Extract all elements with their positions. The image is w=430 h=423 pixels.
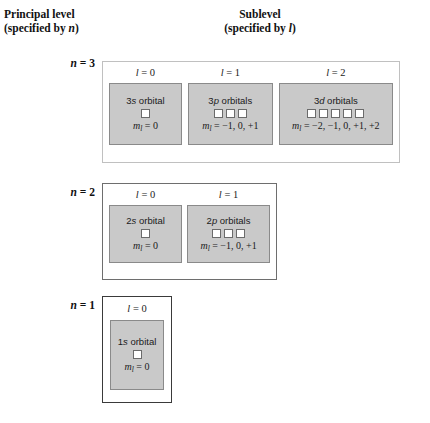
orbital-square [214, 109, 223, 118]
orbital-square [355, 109, 364, 118]
l-value-3-2: = 2 [329, 67, 345, 78]
sublevel-row-1: l = 0 1s orbital ml = 0 [103, 297, 171, 402]
orbital-box-3d: 3d orbitals ml = −2, −1, 0, +1, +2 [279, 83, 393, 145]
sublevel-col-2s: l = 0 2s orbital ml = 0 [109, 189, 182, 263]
orbital-square [224, 229, 233, 238]
orbital-square [236, 229, 245, 238]
orbital-squares-3p [214, 109, 247, 118]
orbital-square [343, 109, 352, 118]
principal-level-box-1: l = 0 1s orbital ml = 0 [102, 296, 172, 403]
orbital-title-3s: 3s orbital [126, 95, 165, 106]
orbital-square [212, 229, 221, 238]
n-value-3: = 3 [77, 57, 95, 69]
orbital-square [133, 350, 142, 359]
orbital-box-2s: 2s orbital ml = 0 [109, 205, 182, 263]
l-label-1-0: l = 0 [127, 303, 146, 314]
orbital-box-2p: 2p orbitals ml = −1, 0, +1 [187, 205, 270, 263]
orbital-title-2s: 2s orbital [126, 215, 165, 226]
n-value-1: = 1 [77, 299, 95, 311]
l-value-2-1: = 1 [222, 189, 238, 200]
l-label-3-2: l = 2 [326, 67, 345, 78]
l-label-2-0: l = 0 [136, 189, 155, 200]
sublevel-col-3d: l = 2 3d orbitals ml = −2, −1, 0, +1, +2 [279, 67, 393, 145]
l-value-2-0: = 0 [139, 189, 155, 200]
n-label-3: n = 3 [35, 57, 95, 69]
l-value-3-0: = 0 [139, 67, 155, 78]
sublevel-heading-line1: Sublevel [239, 8, 281, 20]
orbital-box-3s: 3s orbital ml = 0 [109, 83, 182, 145]
l-label-3-0: l = 0 [136, 67, 155, 78]
l-label-2-1: l = 1 [219, 189, 238, 200]
orbital-square [238, 109, 247, 118]
ml-label-1s: ml = 0 [125, 361, 150, 374]
n-value-2: = 2 [77, 186, 95, 198]
orbital-squares-3d [307, 109, 364, 118]
principal-heading-line2: (specified by n) [4, 22, 79, 34]
l-label-3-1: l = 1 [221, 67, 240, 78]
orbital-box-1s: 1s orbital ml = 0 [110, 320, 164, 390]
ml-label-3p: ml = −1, 0, +1 [202, 120, 258, 133]
sublevel-heading: Sublevel (specified by l) [180, 7, 340, 35]
orbital-title-1s: 1s orbital [118, 336, 157, 347]
principal-level-heading: Principal level (specified by n) [4, 7, 108, 35]
orbital-title-2p: 2p orbitals [207, 215, 251, 226]
sublevel-col-3s: l = 0 3s orbital ml = 0 [109, 67, 182, 145]
orbital-squares-1s [133, 350, 142, 359]
l-value-3-1: = 1 [224, 67, 240, 78]
sublevel-col-3p: l = 1 3p orbitals ml = −1, 0, +1 [188, 67, 273, 145]
orbital-square [319, 109, 328, 118]
sublevel-col-2p: l = 1 2p orbitals ml = −1, 0, +1 [187, 189, 270, 263]
sublevel-row-3: l = 0 3s orbital ml = 0 l = 1 3p orbital… [103, 62, 399, 162]
orbital-title-3d: 3d orbitals [314, 95, 358, 106]
principal-level-box-2: l = 0 2s orbital ml = 0 l = 1 2p orbital… [102, 183, 277, 280]
orbital-square [307, 109, 316, 118]
orbital-squares-3s [141, 109, 150, 118]
orbital-square [226, 109, 235, 118]
principal-heading-line1: Principal level [4, 8, 75, 20]
ml-label-2p: ml = −1, 0, +1 [200, 240, 256, 253]
orbital-square [141, 229, 150, 238]
n-label-2: n = 2 [35, 186, 95, 198]
orbital-box-3p: 3p orbitals ml = −1, 0, +1 [188, 83, 273, 145]
sublevel-col-1s: l = 0 1s orbital ml = 0 [110, 303, 164, 390]
n-label-1: n = 1 [35, 299, 95, 311]
sublevel-row-2: l = 0 2s orbital ml = 0 l = 1 2p orbital… [103, 184, 276, 279]
orbital-title-3p: 3p orbitals [208, 95, 252, 106]
orbital-square [331, 109, 340, 118]
orbital-square [141, 109, 150, 118]
ml-label-2s: ml = 0 [133, 240, 158, 253]
sublevel-heading-line2: (specified by l) [224, 22, 296, 34]
orbital-squares-2p [212, 229, 245, 238]
orbital-squares-2s [141, 229, 150, 238]
ml-label-3d: ml = −2, −1, 0, +1, +2 [292, 120, 380, 133]
ml-label-3s: ml = 0 [133, 120, 158, 133]
principal-level-box-3: l = 0 3s orbital ml = 0 l = 1 3p orbital… [102, 61, 400, 163]
l-value-1-0: = 0 [130, 303, 146, 314]
